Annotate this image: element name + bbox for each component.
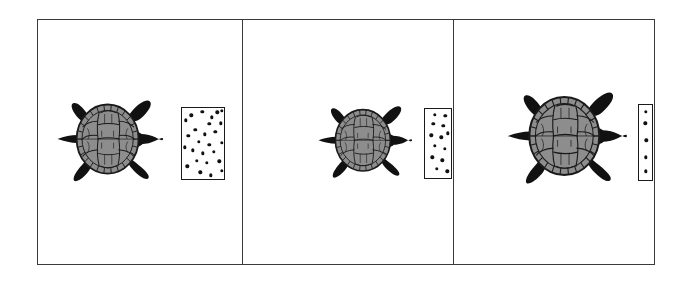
dot-stimulus-field-3 (638, 104, 653, 181)
stimulus-dot (441, 158, 444, 161)
stimulus-dot (199, 171, 202, 174)
turtle-dorsal-view-1 (48, 77, 167, 201)
stimulus-dot (183, 146, 186, 149)
stimulus-dot (214, 130, 217, 133)
stimulus-dot (220, 109, 223, 112)
stimulus-dot (435, 167, 438, 170)
panel-content (453, 19, 655, 265)
figure-root (0, 0, 683, 284)
stimulus-dot (184, 119, 187, 122)
stimulus-dot (433, 113, 436, 116)
stimulus-dot (212, 150, 215, 153)
stimulus-dot (193, 128, 196, 131)
stimulus-dot (203, 133, 206, 136)
stimulus-dot (186, 165, 189, 168)
stimulus-dot (446, 170, 449, 173)
dot-stimulus-field-1 (181, 107, 225, 180)
stimulus-dot (644, 110, 647, 113)
stimulus-dot (205, 161, 208, 164)
stimulus-dot (433, 144, 436, 147)
stimulus-dot (197, 140, 200, 143)
stimulus-dot (186, 134, 189, 137)
stimulus-dot (215, 111, 218, 114)
stimulus-dot (431, 156, 434, 159)
stimulus-dot (191, 149, 194, 152)
stimulus-dot (432, 122, 435, 125)
stimulus-dot (443, 114, 446, 117)
stimulus-dot (201, 152, 204, 155)
stimulus-dot (220, 141, 223, 144)
dot-stimulus-field-2 (424, 108, 452, 179)
stimulus-dot (644, 156, 647, 159)
panel-content (242, 19, 452, 265)
stimulus-dot (190, 114, 193, 117)
middle-panel (242, 19, 452, 265)
stimulus-dot (446, 131, 449, 134)
stimulus-dot (443, 147, 446, 150)
stimulus-dot (220, 169, 223, 172)
turtle-dorsal-view-2 (310, 86, 416, 195)
stimulus-dot (440, 136, 443, 139)
stimulus-dot (210, 116, 213, 119)
left-panel (38, 19, 241, 265)
stimulus-dot (195, 159, 198, 162)
turtle-dorsal-view-3 (497, 67, 632, 205)
right-panel (453, 19, 655, 265)
stimulus-dot (208, 143, 211, 146)
stimulus-dot (201, 110, 204, 113)
panel-content (38, 19, 241, 265)
stimulus-dot (644, 139, 647, 142)
stimulus-dot (209, 173, 212, 176)
stimulus-dot (442, 124, 445, 127)
stimulus-dot (644, 122, 647, 125)
stimulus-dot (219, 122, 222, 125)
stimulus-dot (208, 122, 211, 125)
stimulus-dot (429, 134, 432, 137)
stimulus-dot (644, 170, 647, 173)
stimulus-dot (218, 160, 221, 163)
